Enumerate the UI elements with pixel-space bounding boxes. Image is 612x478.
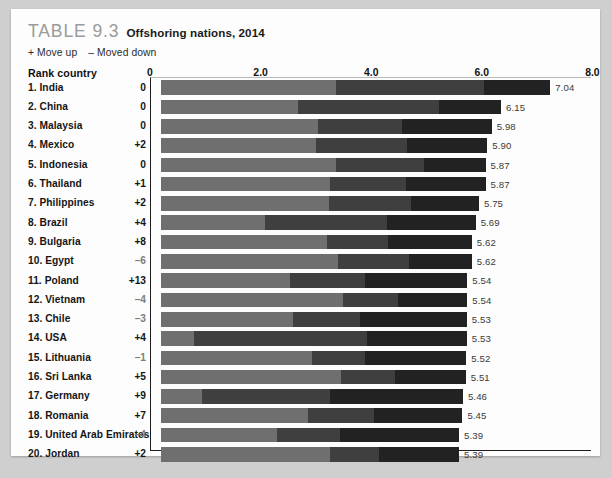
row-country-label: 13. Chile xyxy=(28,313,70,324)
stacked-bar[interactable] xyxy=(161,273,467,288)
bar-total-value: 7.04 xyxy=(555,82,574,93)
bar-segment-2 xyxy=(330,177,406,192)
stacked-bar[interactable] xyxy=(161,389,463,404)
row-country-label: 7. Philippines xyxy=(28,197,94,208)
row-country-label: 2. China xyxy=(28,101,68,112)
row-rank-change: –1 xyxy=(115,352,146,363)
page-title: TABLE 9.3Offshoring nations, 2014 xyxy=(28,21,265,42)
bar-segment-2 xyxy=(343,293,398,308)
row-rank-change: +4 xyxy=(115,217,146,228)
stacked-bar[interactable] xyxy=(161,158,486,173)
stacked-bar[interactable] xyxy=(161,351,466,366)
table-row[interactable]: 14. USA+45.53 xyxy=(11,329,600,348)
bar-segment-1 xyxy=(161,235,327,250)
table-row[interactable]: 2. China06.15 xyxy=(11,97,600,116)
bar-segment-1 xyxy=(161,80,336,95)
bar-segment-3 xyxy=(340,428,459,443)
bar-total-value: 5.54 xyxy=(472,295,491,306)
stacked-bar[interactable] xyxy=(161,447,459,462)
table-row[interactable]: 13. Chile–35.53 xyxy=(11,310,600,329)
table-card: TABLE 9.3Offshoring nations, 2014 + Move… xyxy=(11,9,600,456)
table-row[interactable]: 6. Thailand+15.87 xyxy=(11,175,600,194)
bar-segment-2 xyxy=(336,80,484,95)
bar-segment-1 xyxy=(161,428,277,443)
table-row[interactable]: 16. Sri Lanka+55.51 xyxy=(11,368,600,387)
table-row[interactable]: 19. United Arab Emirates–45.39 xyxy=(11,425,600,444)
stacked-bar[interactable] xyxy=(161,119,492,134)
table-row[interactable]: 18. Romania+75.45 xyxy=(11,406,600,425)
table-row[interactable]: 15. Lithuania–15.52 xyxy=(11,348,600,367)
row-rank-change: +1 xyxy=(115,178,146,189)
bar-segment-2 xyxy=(327,235,388,250)
bar-segment-2 xyxy=(338,254,409,269)
bar-segment-3 xyxy=(484,80,550,95)
bar-segment-3 xyxy=(402,119,492,134)
table-row[interactable]: 11. Poland+135.54 xyxy=(11,271,600,290)
bar-segment-1 xyxy=(161,370,341,385)
bar-segment-3 xyxy=(367,331,467,346)
row-country-label: 1. India xyxy=(28,82,64,93)
bar-segment-2 xyxy=(312,351,365,366)
row-country-label: 16. Sri Lanka xyxy=(28,371,92,382)
bar-total-value: 5.46 xyxy=(468,391,487,402)
bar-total-value: 5.39 xyxy=(464,430,483,441)
row-country-label: 8. Brazil xyxy=(28,217,68,228)
legend-move-up: + Move up xyxy=(28,47,77,58)
bar-total-value: 5.87 xyxy=(491,179,510,190)
stacked-bar[interactable] xyxy=(161,254,472,269)
bar-segment-3 xyxy=(409,254,472,269)
stacked-bar[interactable] xyxy=(161,80,550,95)
bar-segment-1 xyxy=(161,138,316,153)
table-row[interactable]: 4. Mexico+25.90 xyxy=(11,136,600,155)
table-row[interactable]: 10. Egypt–65.62 xyxy=(11,252,600,271)
bar-segment-1 xyxy=(161,331,194,346)
bar-total-value: 5.52 xyxy=(471,353,490,364)
bar-segment-1 xyxy=(161,389,202,404)
bar-total-value: 5.53 xyxy=(472,314,491,325)
row-rank-change: –4 xyxy=(115,429,146,440)
stacked-bar[interactable] xyxy=(161,293,467,308)
bar-total-value: 5.75 xyxy=(484,198,503,209)
bar-segment-1 xyxy=(161,293,343,308)
stacked-bar[interactable] xyxy=(161,428,459,443)
stacked-bar[interactable] xyxy=(161,235,472,250)
bar-segment-2 xyxy=(329,196,411,211)
table-row[interactable]: 1. India07.04 xyxy=(11,78,600,97)
stacked-bar[interactable] xyxy=(161,331,467,346)
bar-segment-3 xyxy=(424,158,485,173)
table-row[interactable]: 8. Brazil+45.69 xyxy=(11,213,600,232)
stacked-bar[interactable] xyxy=(161,408,462,423)
table-row[interactable]: 9. Bulgaria+85.62 xyxy=(11,232,600,251)
bar-segment-1 xyxy=(161,215,265,230)
bar-segment-2 xyxy=(318,119,402,134)
table-row[interactable]: 7. Philippines+25.75 xyxy=(11,194,600,213)
stacked-bar[interactable] xyxy=(161,215,476,230)
stacked-bar[interactable] xyxy=(161,138,487,153)
row-rank-change: +7 xyxy=(115,410,146,421)
row-rank-change: 0 xyxy=(115,159,146,170)
table-row[interactable]: 12. Vietnam–45.54 xyxy=(11,290,600,309)
stacked-bar[interactable] xyxy=(161,370,466,385)
row-country-label: 5. Indonesia xyxy=(28,159,87,170)
bar-segment-3 xyxy=(374,408,462,423)
bar-segment-1 xyxy=(161,158,336,173)
table-caption: Offshoring nations, 2014 xyxy=(126,26,264,39)
bar-segment-3 xyxy=(398,293,467,308)
stacked-bar[interactable] xyxy=(161,312,467,327)
bar-segment-2 xyxy=(277,428,339,443)
table-row[interactable]: 3. Malaysia05.98 xyxy=(11,117,600,136)
bar-segment-1 xyxy=(161,273,290,288)
stacked-bar[interactable] xyxy=(161,177,486,192)
table-row[interactable]: 17. Germany+95.46 xyxy=(11,387,600,406)
row-country-label: 12. Vietnam xyxy=(28,294,85,305)
bar-segment-3 xyxy=(387,215,476,230)
table-row[interactable]: 20. Jordan+25.39 xyxy=(11,445,600,464)
bar-segment-1 xyxy=(161,100,298,115)
stacked-bar[interactable] xyxy=(161,100,501,115)
row-country-label: 14. USA xyxy=(28,332,67,343)
row-rank-change: +2 xyxy=(115,139,146,150)
stacked-bar[interactable] xyxy=(161,196,479,211)
table-row[interactable]: 5. Indonesia05.87 xyxy=(11,155,600,174)
row-rank-change: +9 xyxy=(115,390,146,401)
bar-segment-1 xyxy=(161,177,330,192)
